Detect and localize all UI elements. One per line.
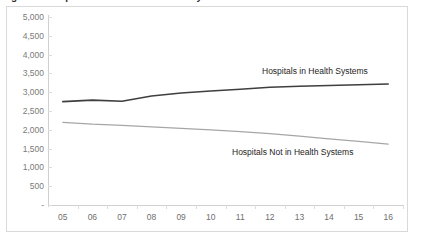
y-axis-tick-mark — [48, 36, 52, 37]
y-axis-tick-mark — [48, 167, 52, 168]
y-axis-tick-mark — [48, 92, 52, 93]
plot-area — [0, 0, 421, 238]
y-axis-tick-mark — [48, 55, 52, 56]
series-label-not-in-health-systems: Hospitals Not in Health Systems — [232, 147, 353, 157]
y-axis-tick-mark — [48, 186, 52, 187]
y-axis-tick-mark — [48, 17, 52, 18]
chart-figure: Figure 1. Hospitals in and not in Health… — [0, 0, 421, 238]
series-line-in-health-systems — [63, 84, 388, 102]
y-axis-tick-mark — [48, 111, 52, 112]
series-label-in-health-systems: Hospitals in Health Systems — [262, 66, 368, 76]
y-axis-tick-mark — [48, 130, 52, 131]
y-axis-tick-mark — [48, 73, 52, 74]
y-axis-tick-mark — [48, 205, 52, 206]
series-line-not-in-health-systems — [63, 122, 388, 144]
y-axis-tick-mark — [48, 149, 52, 150]
